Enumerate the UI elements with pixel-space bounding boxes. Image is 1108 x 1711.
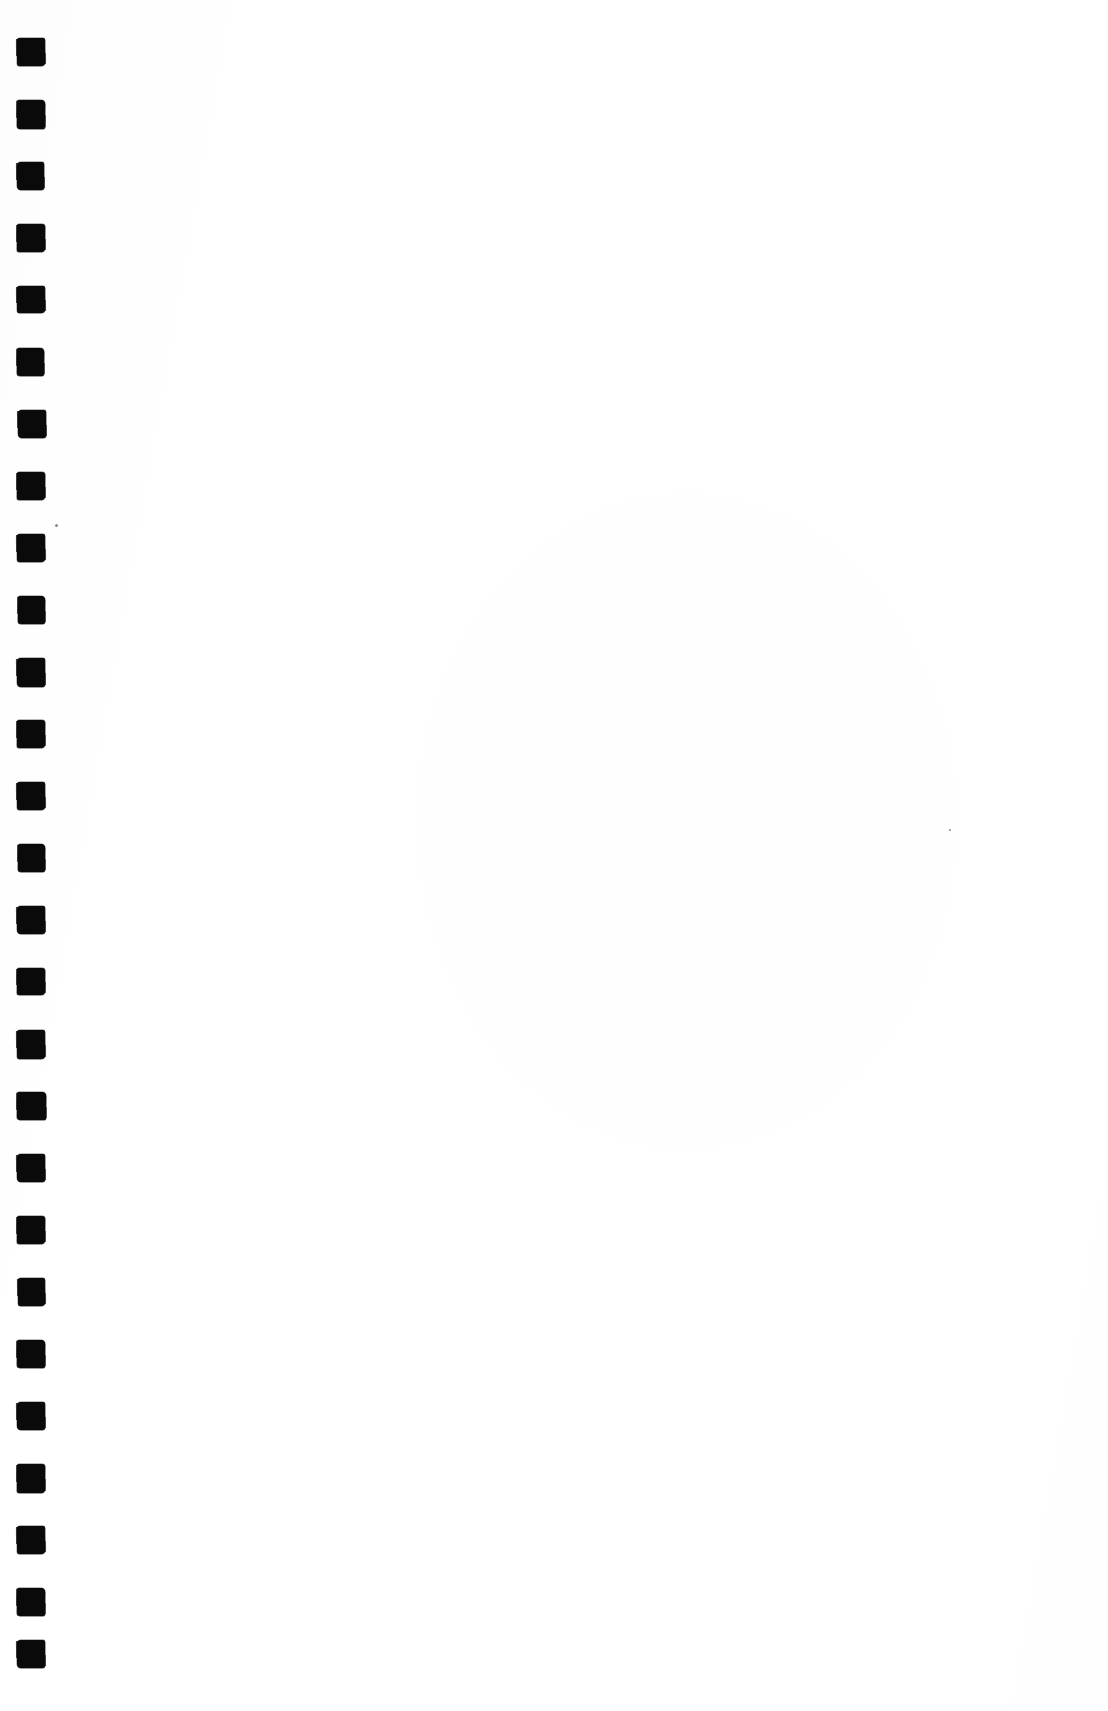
binding-punch-mark xyxy=(18,596,45,624)
binding-punch-mark xyxy=(18,1278,45,1306)
binding-punch-mark xyxy=(17,1402,45,1430)
page-content-area xyxy=(70,0,1108,1711)
scan-speck xyxy=(55,524,58,527)
binding-punch-mark xyxy=(18,410,46,438)
binding-strip xyxy=(0,0,70,1711)
scanned-page xyxy=(0,0,1108,1711)
scan-speck xyxy=(949,829,951,831)
binding-punch-mark xyxy=(17,348,44,376)
binding-punch-mark xyxy=(17,1640,45,1668)
binding-punch-mark xyxy=(17,472,45,500)
binding-punch-mark xyxy=(17,1526,45,1554)
binding-punch-mark xyxy=(17,38,45,66)
binding-punch-mark xyxy=(17,906,45,934)
binding-punch-mark xyxy=(17,100,45,129)
binding-punch-mark xyxy=(17,1154,45,1182)
binding-punch-mark xyxy=(17,658,45,687)
binding-punch-mark xyxy=(17,1216,45,1244)
binding-punch-mark xyxy=(17,224,45,252)
binding-punch-mark xyxy=(17,782,45,810)
binding-punch-mark xyxy=(17,1092,46,1120)
binding-punch-mark xyxy=(17,1588,45,1616)
binding-punch-mark xyxy=(17,720,45,748)
binding-punch-mark xyxy=(17,968,45,995)
binding-punch-mark xyxy=(17,162,44,190)
binding-punch-mark xyxy=(17,534,45,562)
binding-punch-mark xyxy=(17,1340,45,1368)
binding-punch-mark xyxy=(17,1030,45,1059)
binding-punch-mark xyxy=(17,1464,45,1493)
binding-punch-mark xyxy=(17,286,45,313)
binding-punch-mark xyxy=(18,844,45,872)
